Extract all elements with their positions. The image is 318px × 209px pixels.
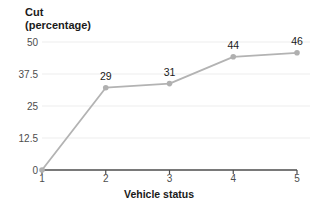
data-point <box>230 54 236 60</box>
data-label: 31 <box>164 66 176 78</box>
data-point <box>294 50 300 56</box>
x-tick-label: 1 <box>39 173 45 184</box>
line-chart: Cut (percentage) 0 12.5 25 37.5 50 <box>0 0 318 209</box>
x-tick-label: 4 <box>230 173 236 184</box>
plot-area <box>0 0 318 209</box>
data-point <box>103 85 109 91</box>
x-axis-title: Vehicle status <box>0 188 318 200</box>
data-label: 46 <box>291 35 303 47</box>
data-point <box>39 167 45 173</box>
x-tick-label: 3 <box>167 173 173 184</box>
data-point <box>167 81 173 87</box>
x-tick-label: 5 <box>294 173 300 184</box>
data-label: 29 <box>100 70 112 82</box>
gridlines <box>42 42 310 138</box>
data-label: 44 <box>227 39 239 51</box>
x-tick-label: 2 <box>103 173 109 184</box>
